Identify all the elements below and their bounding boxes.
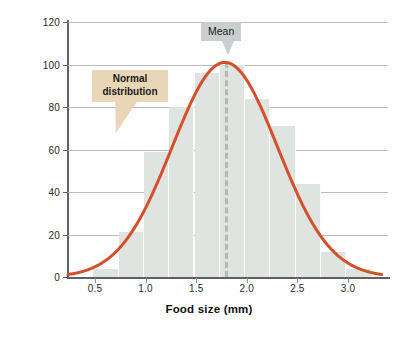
y-tick-label-100: 100 — [43, 59, 60, 70]
plot-area — [68, 22, 388, 277]
bar-7 — [270, 126, 295, 277]
x-axis-line — [68, 277, 390, 279]
x-tick-label-2-5: 2.5 — [290, 283, 305, 294]
mean-annotation-pointer — [222, 41, 234, 55]
y-tick-label-0: 0 — [54, 272, 60, 283]
bar-0 — [93, 269, 118, 278]
bar-3 — [169, 107, 194, 277]
bar-10 — [346, 269, 371, 278]
y-tick-label-40: 40 — [48, 187, 60, 198]
x-tick-label-1-5: 1.5 — [189, 283, 204, 294]
mean-annotation-box: Mean — [201, 22, 241, 41]
x-tick-label-0-5: 0.5 — [88, 283, 103, 294]
mean-line — [225, 62, 228, 277]
chart-figure: Frequency 120 100 80 60 40 20 0 — [0, 0, 418, 337]
x-tick-label-2-0: 2.0 — [240, 283, 255, 294]
x-tick-label-1-0: 1.0 — [138, 283, 153, 294]
bar-1 — [119, 232, 144, 277]
x-tick-label-3-0: 3.0 — [341, 283, 356, 294]
y-tick-label-20: 20 — [48, 229, 60, 240]
normal-annotation-line2: distribution — [103, 86, 158, 97]
y-tick-label-80: 80 — [48, 102, 60, 113]
bar-8 — [296, 184, 321, 278]
bar-4 — [195, 73, 220, 277]
y-tick-label-120: 120 — [43, 17, 60, 28]
normal-annotation-line1: Normal — [113, 73, 147, 84]
bar-9 — [321, 252, 346, 278]
bar-2 — [144, 152, 169, 277]
bar-5 — [220, 65, 245, 278]
bar-6 — [245, 99, 270, 278]
x-axis-title: Food size (mm) — [0, 303, 418, 315]
y-tick-label-60: 60 — [48, 144, 60, 155]
y-axis-tick-labels: 120 100 80 60 40 20 0 — [20, 0, 60, 337]
